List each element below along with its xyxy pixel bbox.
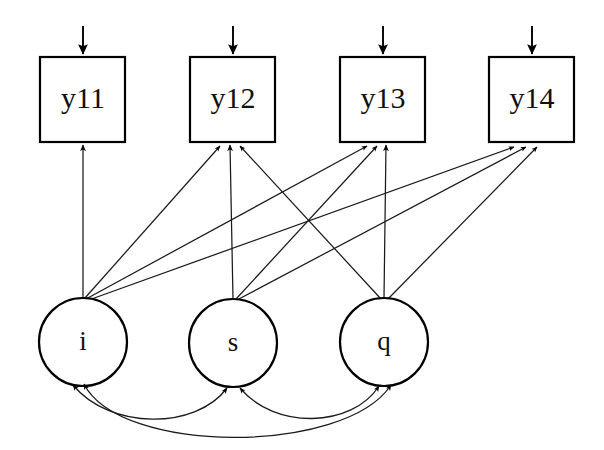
- covariance-curves-group: [73, 384, 391, 437]
- latent-node-i[interactable]: i: [39, 298, 127, 386]
- latent-node-q[interactable]: q: [340, 298, 428, 386]
- latent-label-q: q: [377, 326, 391, 356]
- observed-label-y12: y12: [211, 81, 256, 114]
- path-diagram-canvas: y11 y12 y13 y14 i s q: [0, 0, 604, 450]
- covariance-curve-i-s: [73, 385, 227, 419]
- latent-node-s[interactable]: s: [189, 299, 277, 387]
- observed-label-y11: y11: [61, 81, 105, 114]
- observed-node-y12[interactable]: y12: [190, 57, 275, 142]
- latent-label-s: s: [228, 327, 239, 357]
- loading-paths-group: [83, 145, 537, 301]
- loading-path-s-to-y14: [237, 147, 526, 300]
- loading-path-q-to-y12: [240, 146, 381, 299]
- loading-path-s-to-y12: [230, 145, 233, 299]
- latent-label-i: i: [79, 326, 87, 356]
- loading-path-i-to-y12: [85, 146, 220, 298]
- sem-diagram-svg: y11 y12 y13 y14 i s q: [0, 0, 604, 450]
- covariance-curve-i-q: [84, 384, 391, 437]
- observed-node-y14[interactable]: y14: [489, 57, 574, 142]
- loading-path-s-to-y13: [236, 146, 377, 299]
- loading-path-i-to-y13: [86, 146, 367, 299]
- observed-node-y11[interactable]: y11: [40, 57, 125, 142]
- observed-label-y13: y13: [361, 81, 406, 114]
- loading-path-q-to-y14: [387, 147, 537, 300]
- residual-arrows-group: [83, 26, 532, 54]
- observed-node-y13[interactable]: y13: [340, 57, 425, 142]
- observed-label-y14: y14: [510, 81, 555, 114]
- covariance-curve-s-q: [240, 386, 379, 419]
